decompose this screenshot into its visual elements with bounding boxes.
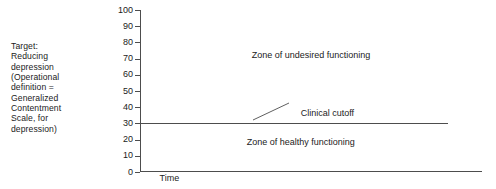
x-axis-line xyxy=(140,171,482,172)
y-axis-tick-labels: 0102030405060708090100 xyxy=(93,10,133,172)
y-axis-tick xyxy=(135,172,140,173)
y-axis-line xyxy=(140,10,141,172)
y-axis-tick xyxy=(135,107,140,108)
y-axis-tick-label: 0 xyxy=(93,168,133,177)
y-axis-tick-label: 20 xyxy=(93,135,133,144)
y-axis-tick xyxy=(135,10,140,11)
y-axis-tick-label: 80 xyxy=(93,38,133,47)
clinical-cutoff-line xyxy=(140,123,448,124)
clinical-cutoff-leader-line xyxy=(253,103,289,120)
y-axis-tick-label: 30 xyxy=(93,119,133,128)
y-axis-tick-label: 90 xyxy=(93,22,133,31)
plot-area: 0102030405060708090100 Zone of undesired… xyxy=(140,10,482,172)
y-axis-tick xyxy=(135,26,140,27)
zone-healthy-functioning-label: Zone of healthy functioning xyxy=(247,138,355,147)
y-axis-tick xyxy=(135,140,140,141)
y-axis-tick xyxy=(135,59,140,60)
y-axis-tick xyxy=(135,156,140,157)
y-axis-tick-label: 40 xyxy=(93,103,133,112)
y-axis-tick xyxy=(135,91,140,92)
zone-undesired-functioning-label: Zone of undesired functioning xyxy=(252,51,371,60)
y-axis-tick-label: 10 xyxy=(93,151,133,160)
y-axis-tick-label: 70 xyxy=(93,54,133,63)
clinical-cutoff-label: Clinical cutoff xyxy=(301,109,354,118)
y-axis-tick-label: 100 xyxy=(93,6,133,15)
target-note: Target: Reducing depression (Operational… xyxy=(11,41,101,134)
x-axis-title: Time xyxy=(160,174,161,183)
y-axis-tick-label: 50 xyxy=(93,87,133,96)
y-axis-tick xyxy=(135,75,140,76)
y-axis-tick xyxy=(135,42,140,43)
figure-canvas: Target: Reducing depression (Operational… xyxy=(0,0,496,189)
y-axis-tick-label: 60 xyxy=(93,70,133,79)
